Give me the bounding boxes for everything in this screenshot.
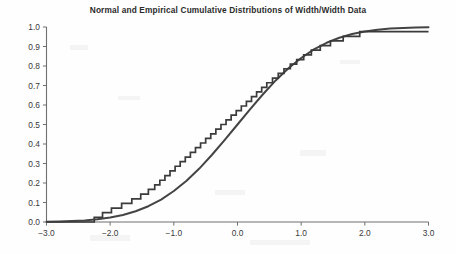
x-tick-label: −1.0 bbox=[166, 228, 183, 238]
y-tick-label: 0.8 bbox=[28, 61, 40, 71]
chart-figure: Normal and Empirical Cumulative Distribu… bbox=[0, 0, 456, 254]
y-tick-label: 0.1 bbox=[28, 198, 40, 208]
y-tick-label: 0.6 bbox=[28, 100, 40, 110]
y-tick-label: 1.0 bbox=[28, 22, 40, 32]
y-tick-label: 0.7 bbox=[28, 81, 40, 91]
tick-label-layer: 0.00.10.20.30.40.50.60.70.80.91.0−3.0−2.… bbox=[28, 22, 434, 238]
y-tick-label: 0.0 bbox=[28, 217, 40, 227]
x-tick-label: 0.0 bbox=[232, 228, 244, 238]
chart-plot-area: 0.00.10.20.30.40.50.60.70.80.91.0−3.0−2.… bbox=[0, 0, 456, 254]
x-tick-label: 1.0 bbox=[295, 228, 307, 238]
scan-noise-layer bbox=[70, 45, 360, 245]
y-tick-label: 0.3 bbox=[28, 159, 40, 169]
y-tick-label: 0.9 bbox=[28, 42, 40, 52]
x-tick-label: 3.0 bbox=[423, 228, 435, 238]
x-tick-label: −3.0 bbox=[38, 228, 55, 238]
x-tick-label: −2.0 bbox=[102, 228, 119, 238]
x-tick-label: 2.0 bbox=[359, 228, 371, 238]
y-tick-label: 0.2 bbox=[28, 178, 40, 188]
y-tick-label: 0.4 bbox=[28, 139, 40, 149]
y-tick-label: 0.5 bbox=[28, 120, 40, 130]
